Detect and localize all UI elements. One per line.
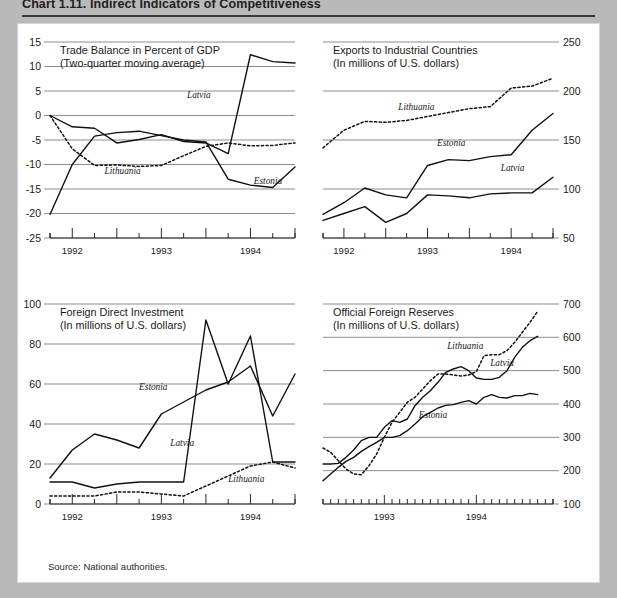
series-label-lithuania: Lithuania <box>446 341 484 351</box>
source-note: Source: National authorities. <box>48 561 167 572</box>
series-line-latvia <box>323 177 553 222</box>
panel-subtitle: (Two-quarter moving average) <box>60 57 205 69</box>
x-tick-label: 1993 <box>151 245 172 256</box>
y-tick-label: -20 <box>26 207 41 219</box>
chart-canvas: 151050-5-10-15-20-25199219931994Trade Ba… <box>18 24 599 582</box>
series-label-estonia: Estonia <box>253 176 283 186</box>
panel-title: Foreign Direct Investment <box>60 306 184 318</box>
y-tick-label: 700 <box>563 298 581 310</box>
y-tick-label: 0 <box>35 109 41 121</box>
y-tick-label: 100 <box>563 498 581 510</box>
series-label-estonia: Estonia <box>436 138 466 148</box>
x-tick-label: 1994 <box>240 245 261 256</box>
series-line-estonia <box>50 131 295 214</box>
y-tick-label: 200 <box>563 464 581 476</box>
panel-exports: 25020015010050199219931994Exports to Ind… <box>309 28 599 286</box>
y-tick-label: -10 <box>26 158 41 170</box>
y-tick-label: 600 <box>563 331 581 343</box>
y-tick-label: 10 <box>29 60 41 72</box>
x-tick-label: 1994 <box>240 511 261 522</box>
series-line-lithuania <box>50 116 295 167</box>
series-label-latvia: Latvia <box>500 163 525 173</box>
y-tick-label: 5 <box>35 85 41 97</box>
y-tick-label: 250 <box>563 36 581 48</box>
chart-figure: Chart 1.11. Indirect Indicators of Compe… <box>0 0 617 598</box>
panel-subtitle: (In millions of U.S. dollars) <box>333 319 459 331</box>
panel-reserves: 70060050040030020010019931994Official Fo… <box>309 290 599 552</box>
y-tick-label: 0 <box>35 498 41 510</box>
series-label-latvia: Latvia <box>186 90 211 100</box>
y-tick-label: 200 <box>563 85 581 97</box>
series-label-lithuania: Lithuania <box>227 474 265 484</box>
chart-exports-industrial-countries: 25020015010050199219931994Exports to Ind… <box>309 28 599 286</box>
x-tick-label: 1993 <box>417 245 438 256</box>
y-tick-label: 50 <box>563 232 575 244</box>
series-label-lithuania: Lithuania <box>104 166 142 176</box>
chart-trade-balance: 151050-5-10-15-20-25199219931994Trade Ba… <box>18 28 309 286</box>
series-label-lithuania: Lithuania <box>397 102 435 112</box>
x-tick-label: 1992 <box>62 245 83 256</box>
y-tick-label: 40 <box>29 418 41 430</box>
panel-title: Exports to Industrial Countries <box>333 44 478 56</box>
series-line-latvia <box>50 55 295 154</box>
series-label-latvia: Latvia <box>169 438 194 448</box>
chart-foreign-direct-investment: 100806040200199219931994Foreign Direct I… <box>18 290 309 552</box>
y-tick-label: 100 <box>23 298 41 310</box>
series-label-estonia: Estonia <box>138 382 168 392</box>
title-divider <box>22 15 595 17</box>
x-tick-label: 1993 <box>374 511 395 522</box>
x-tick-label: 1992 <box>62 511 83 522</box>
y-tick-label: -5 <box>32 134 41 146</box>
series-label-latvia: Latvia <box>489 358 514 368</box>
panel-subtitle: (In millions of U.S. dollars) <box>333 57 459 69</box>
series-line-latvia <box>50 320 295 488</box>
y-tick-label: 60 <box>29 378 41 390</box>
y-tick-label: 500 <box>563 364 581 376</box>
panel-trade-balance: 151050-5-10-15-20-25199219931994Trade Ba… <box>18 28 309 286</box>
y-tick-label: -15 <box>26 183 41 195</box>
x-tick-label: 1993 <box>151 511 172 522</box>
x-tick-label: 1992 <box>333 245 354 256</box>
chart-official-foreign-reserves: 70060050040030020010019931994Official Fo… <box>309 290 599 552</box>
y-tick-label: 300 <box>563 431 581 443</box>
panel-fdi: 100806040200199219931994Foreign Direct I… <box>18 290 309 552</box>
series-label-estonia: Estonia <box>418 410 448 420</box>
y-tick-label: -25 <box>26 232 41 244</box>
y-tick-label: 400 <box>563 398 581 410</box>
figure-title: Chart 1.11. Indirect Indicators of Compe… <box>22 0 321 11</box>
y-tick-label: 80 <box>29 338 41 350</box>
y-tick-label: 100 <box>563 183 581 195</box>
y-tick-label: 15 <box>29 36 41 48</box>
panel-title: Trade Balance in Percent of GDP <box>60 44 220 56</box>
y-tick-label: 150 <box>563 134 581 146</box>
panel-title: Official Foreign Reserves <box>333 306 455 318</box>
y-tick-label: 20 <box>29 458 41 470</box>
panel-subtitle: (In millions of U.S. dollars) <box>60 319 186 331</box>
x-tick-label: 1994 <box>501 245 522 256</box>
series-line-latvia <box>323 336 538 464</box>
x-tick-label: 1994 <box>466 511 487 522</box>
series-line-lithuania <box>323 311 538 474</box>
